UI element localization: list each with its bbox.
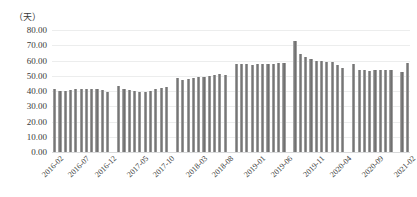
bar	[176, 78, 179, 152]
bar	[197, 77, 200, 152]
x-axis-tick-label: 2020-04	[328, 154, 353, 179]
bar	[202, 77, 205, 152]
bar	[358, 70, 361, 152]
y-axis-tick-label: 70.00	[27, 40, 47, 50]
bar	[363, 70, 366, 152]
bar	[256, 64, 259, 152]
bar	[336, 65, 339, 152]
bar	[261, 64, 264, 152]
bar	[304, 57, 307, 152]
y-axis-tick-label: 40.00	[27, 86, 47, 96]
bar	[69, 90, 72, 152]
bar	[187, 79, 190, 152]
bar	[117, 86, 120, 152]
y-axis-tick-label: 50.00	[27, 71, 47, 81]
bar	[245, 64, 248, 152]
bar	[331, 62, 334, 152]
x-axis-tick-label: 2016-02	[40, 154, 65, 179]
bar	[251, 65, 254, 152]
bar	[213, 75, 216, 152]
bar	[224, 75, 227, 152]
bar	[95, 89, 98, 152]
y-axis-tick-label: 10.00	[27, 132, 47, 142]
axis-baseline	[52, 152, 410, 153]
bar	[74, 89, 77, 152]
y-axis-tick-label: 80.00	[27, 25, 47, 35]
bar	[101, 90, 104, 152]
bar	[138, 92, 141, 152]
x-axis-tick-label: 2016-07	[66, 154, 91, 179]
bar	[149, 91, 152, 152]
bar	[368, 71, 371, 152]
x-axis-tick-label: 2016-12	[93, 154, 118, 179]
bar	[299, 54, 302, 152]
bar	[379, 70, 382, 152]
bar	[320, 61, 323, 152]
bar	[406, 63, 409, 152]
bar	[400, 72, 403, 152]
bar	[90, 89, 93, 152]
x-axis-tick-label: 2020-09	[360, 154, 385, 179]
y-axis-tick-label: 0.00	[31, 147, 47, 157]
x-axis-tick-label: 2019-11	[302, 154, 327, 179]
bar	[80, 89, 83, 152]
bar	[128, 90, 131, 152]
bar	[235, 64, 238, 152]
bar	[293, 41, 296, 152]
bar	[352, 64, 355, 152]
x-axis-tick-label: 2017-05	[125, 154, 150, 179]
x-axis-tick-label: 2018-03	[184, 154, 209, 179]
x-axis-tick-label: 2019-06	[269, 154, 294, 179]
x-axis-tick-label: 2017-10	[152, 154, 177, 179]
y-axis-unit-label: （天）	[14, 10, 41, 23]
x-axis-tick-label: 2018-08	[210, 154, 235, 179]
bar	[309, 59, 312, 152]
x-axis-tick-label: 2019-01	[243, 154, 268, 179]
bar	[144, 92, 147, 152]
bar	[58, 91, 61, 152]
bar	[154, 89, 157, 152]
y-axis-tick-label: 20.00	[27, 117, 47, 127]
bar	[53, 89, 56, 152]
bar	[85, 89, 88, 152]
bar	[122, 89, 125, 152]
bar	[341, 68, 344, 152]
bar	[181, 80, 184, 152]
y-axis-tick-label: 30.00	[27, 101, 47, 111]
bar	[282, 63, 285, 152]
y-axis-tick-label: 60.00	[27, 56, 47, 66]
bar	[192, 78, 195, 152]
bar	[208, 76, 211, 152]
bar	[389, 70, 392, 152]
bar	[373, 70, 376, 152]
bar	[315, 61, 318, 152]
bar	[240, 64, 243, 152]
bar	[106, 92, 109, 152]
bar	[133, 91, 136, 152]
plot-area: 0.0010.0020.0030.0040.0050.0060.0070.008…	[52, 30, 410, 152]
bar	[266, 64, 269, 152]
bar	[384, 70, 387, 152]
bar	[325, 62, 328, 152]
bar	[160, 88, 163, 152]
bar	[218, 74, 221, 152]
bar	[165, 87, 168, 152]
bar	[277, 63, 280, 152]
bar-series	[52, 30, 410, 152]
x-axis-ticks: 2016-022016-072016-122017-052017-102018-…	[52, 154, 410, 197]
bar	[272, 64, 275, 152]
bar	[64, 91, 67, 152]
x-axis-tick-label: 2021-02	[392, 154, 417, 179]
bar-chart: （天） 0.0010.0020.0030.0040.0050.0060.0070…	[0, 0, 417, 197]
